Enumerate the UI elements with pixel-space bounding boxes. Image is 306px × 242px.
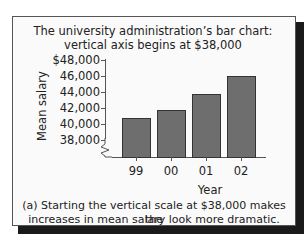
x-tick-label: 01 <box>191 164 221 178</box>
x-tick <box>136 157 137 161</box>
y-tick-label: 38,000 <box>60 134 100 146</box>
chart-title-line1: The university administration’s bar char… <box>0 24 306 38</box>
x-tick-label: 02 <box>226 164 256 178</box>
chart-title-line2: vertical axis begins at $38,000 <box>0 38 306 52</box>
y-tick <box>101 124 105 125</box>
x-tick <box>206 157 207 161</box>
y-tick-label: 44,000 <box>60 86 100 98</box>
x-tick <box>171 157 172 161</box>
bar-01 <box>192 94 221 158</box>
x-tick-label: 99 <box>121 164 151 178</box>
x-tick <box>241 157 242 161</box>
y-axis-title: Mean salary <box>35 61 49 151</box>
y-tick <box>101 60 105 61</box>
y-tick-label: 46,000 <box>60 70 100 82</box>
bar-02 <box>227 76 256 158</box>
y-tick <box>101 76 105 77</box>
caption-line2: increases in mean salary look more drama… <box>14 213 294 227</box>
y-tick-label: 40,000 <box>60 118 100 130</box>
y-tick <box>101 92 105 93</box>
y-tick-label: 42,000 <box>60 102 100 114</box>
y-tick <box>101 108 105 109</box>
y-axis-line <box>105 59 106 139</box>
bar-00 <box>157 110 186 158</box>
x-axis-title: Year <box>150 183 270 197</box>
x-tick-label: 00 <box>156 164 186 178</box>
y-tick-label: $48,000 <box>52 54 100 66</box>
bar-99 <box>122 118 151 158</box>
